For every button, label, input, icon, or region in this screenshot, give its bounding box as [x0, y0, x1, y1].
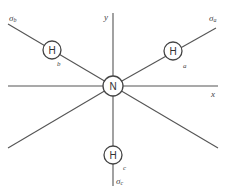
hydrogen-a: H a σa [164, 13, 216, 70]
hydrogen-c: H c σc [104, 146, 127, 186]
bond-line-b [8, 24, 113, 86]
x-axis-label: x [210, 89, 215, 99]
orbital-label-sigma-a: σa [209, 13, 216, 23]
bond-line-a [113, 28, 216, 86]
central-atom-n: N [103, 76, 123, 96]
bond-label-b: b [57, 60, 61, 68]
atom-label: N [109, 81, 116, 92]
atom-label: H [169, 46, 176, 57]
atom-label: H [48, 45, 55, 56]
diagram-canvas: y x N H b σb H a σa H c σc [0, 0, 231, 195]
lower-right-line [113, 86, 218, 148]
y-axis-label: y [103, 12, 108, 22]
orbital-label-sigma-c: σc [116, 176, 123, 186]
orbital-label-sigma-b: σb [9, 13, 16, 23]
bond-label-a: a [183, 62, 187, 70]
atom-label: H [109, 150, 116, 161]
bond-label-c: c [123, 164, 127, 172]
lower-left-line [8, 86, 113, 148]
